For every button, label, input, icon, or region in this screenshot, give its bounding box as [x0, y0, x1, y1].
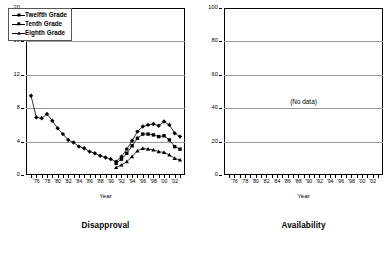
x-axis-tick: [31, 175, 32, 178]
x-axis-tick-label: '92: [316, 179, 323, 184]
legend-label: Eighth Grade: [25, 30, 65, 36]
x-axis-tick: [148, 175, 149, 178]
y-axis-tick: [219, 75, 222, 76]
x-axis-tick-label: '90: [107, 179, 114, 184]
y-axis-tick-label: 4: [17, 139, 20, 145]
data-point-marker: [136, 137, 139, 140]
x-axis-tick: [304, 175, 305, 178]
data-point-marker: [114, 165, 118, 169]
x-axis-tick: [116, 175, 117, 178]
data-point-marker: [82, 146, 86, 150]
legend-label: Twelfth Grade: [25, 12, 67, 18]
y-axis-tick-label: 0: [215, 172, 218, 178]
x-axis-tick: [229, 175, 230, 178]
plot-area-availability: (No data) '76'78'80'82'84'86'88'90'92'94…: [224, 8, 383, 175]
x-axis-tick: [346, 175, 347, 178]
x-axis-tick-label: '02: [171, 179, 178, 184]
x-axis-tick: [127, 175, 128, 178]
x-axis-tick: [293, 175, 294, 178]
y-axis-tick-label: 100: [208, 5, 218, 11]
data-point-marker: [109, 157, 113, 161]
x-axis-tick: [272, 175, 273, 178]
x-axis-tick: [261, 175, 262, 178]
x-axis-tick: [180, 175, 181, 178]
data-point-marker: [130, 144, 133, 147]
x-axis-tick-label: '76: [231, 179, 238, 184]
x-axis-tick: [52, 175, 53, 178]
data-point-marker: [151, 122, 155, 126]
x-axis-tick: [282, 175, 283, 178]
x-axis-tick-label: '86: [86, 179, 93, 184]
data-point-marker: [93, 151, 97, 155]
x-axis-tick: [159, 175, 160, 178]
x-axis-tick-label: '78: [43, 179, 50, 184]
data-point-marker: [173, 145, 176, 148]
x-axis-tick-label: '82: [65, 179, 72, 184]
x-axis-tick: [335, 175, 336, 178]
y-axis-tick: [21, 175, 24, 176]
x-axis-tick-label: '78: [241, 179, 248, 184]
x-axis-tick: [314, 175, 315, 178]
data-point-marker: [114, 162, 117, 165]
x-axis-tick: [106, 175, 107, 178]
y-axis-labels-availability: 020406080100: [198, 8, 222, 175]
x-axis-tick: [367, 175, 368, 178]
x-axis-tick-label: '86: [284, 179, 291, 184]
y-axis-tick: [219, 175, 222, 176]
gridline: [224, 108, 383, 109]
gridline: [224, 75, 383, 76]
y-axis-tick-label: 80: [212, 39, 218, 45]
y-axis-tick: [21, 75, 24, 76]
x-axis-tick-label: '80: [54, 179, 61, 184]
y-axis-tick-label: 60: [212, 72, 218, 78]
y-axis-tick: [219, 142, 222, 143]
gridline: [224, 142, 383, 143]
data-point-marker: [173, 156, 177, 160]
data-point-marker: [120, 157, 123, 160]
x-axis-tick-label: '92: [118, 179, 125, 184]
x-axis-tick-label: '00: [359, 179, 366, 184]
x-axis-title: Year: [224, 193, 383, 199]
x-axis-tick-label: '94: [327, 179, 334, 184]
data-point-marker: [103, 155, 107, 159]
x-axis-tick: [169, 175, 170, 178]
data-point-marker: [167, 123, 171, 127]
y-axis-tick-label: 0: [17, 172, 20, 178]
legend-diamond-marker-icon: [12, 11, 25, 20]
y-axis-tick: [219, 8, 222, 9]
panel-title-availability: Availability: [224, 222, 383, 230]
y-axis-tick: [21, 41, 24, 42]
x-axis-tick-label: '98: [348, 179, 355, 184]
legend-item-eighth-grade: Eighth Grade: [12, 29, 67, 38]
data-point-marker: [146, 123, 150, 127]
y-axis-tick-label: 40: [212, 105, 218, 111]
x-axis-tick-label: '02: [369, 179, 376, 184]
x-axis-tick: [240, 175, 241, 178]
data-point-marker: [119, 163, 123, 167]
y-axis-tick-label: 20: [212, 139, 218, 145]
y-axis-tick: [21, 142, 24, 143]
legend-item-tenth-grade: Tenth Grade: [12, 20, 67, 29]
data-point-marker: [125, 152, 128, 155]
x-axis-labels: '76'78'80'82'84'86'88'90'92'94'96'98'00'…: [224, 179, 383, 189]
chart-panel-availability: 020406080100 (No data) '76'78'80'82'84'8…: [195, 0, 389, 253]
y-axis-tick: [219, 41, 222, 42]
y-axis-tick: [219, 108, 222, 109]
x-axis-tick: [325, 175, 326, 178]
x-axis-title: Year: [26, 193, 185, 199]
plot-frame: [224, 8, 383, 175]
x-axis-tick: [42, 175, 43, 178]
data-point-marker: [157, 135, 160, 138]
data-point-marker: [141, 146, 145, 150]
legend-square-marker-icon: [12, 20, 25, 29]
chart-legend: Twelfth Grade Tenth Grade Eighth Grade: [8, 8, 72, 41]
y-axis-tick: [21, 108, 24, 109]
x-axis-tick-label: '84: [75, 179, 82, 184]
data-point-marker: [146, 132, 149, 135]
no-data-annotation: (No data): [224, 98, 383, 104]
x-axis-tick-label: '90: [305, 179, 312, 184]
data-point-marker: [34, 115, 38, 119]
data-point-marker: [162, 134, 165, 137]
gridline: [224, 41, 383, 42]
legend-label: Tenth Grade: [25, 21, 62, 27]
